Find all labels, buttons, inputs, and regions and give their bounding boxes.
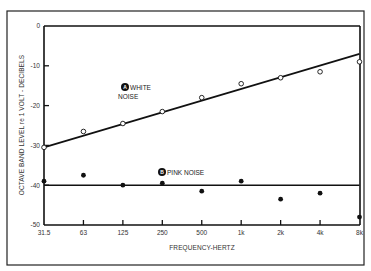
y-tick-label: -50	[31, 221, 41, 228]
white-noise-label-line1: WHITE	[130, 84, 152, 91]
x-tick-label: 1k	[238, 229, 246, 236]
data-point	[199, 95, 204, 100]
x-tick-label: 4k	[317, 229, 325, 236]
data-point	[239, 81, 244, 86]
x-tick-label: 8k	[356, 229, 364, 236]
noise-spectrum-chart: 0-10-20-30-40-50 31.5631252505001k2k4k8k…	[0, 0, 371, 271]
x-tick-label: 500	[196, 229, 207, 236]
x-axis-title: FREQUENCY-HERTZ	[169, 244, 234, 252]
x-tick-label: 63	[80, 229, 88, 236]
data-point	[278, 197, 283, 202]
y-tick-label: -20	[31, 102, 41, 109]
data-point	[318, 191, 323, 196]
x-tick-label: 2k	[277, 229, 285, 236]
white-noise-label: A WHITE NOISE	[118, 83, 152, 100]
x-tick-label: 250	[157, 229, 168, 236]
data-point	[318, 69, 323, 74]
data-point	[42, 179, 47, 184]
plot-frame	[44, 26, 360, 225]
series-layer	[42, 54, 362, 220]
y-tick-label: 0	[36, 22, 40, 29]
y-tick-label: -10	[31, 62, 41, 69]
data-point	[160, 109, 165, 114]
x-axis-ticks: 31.5631252505001k2k4k8k	[38, 220, 364, 236]
y-axis-title: OCTAVE BAND LEVEL re 1 VOLT - DECIBELS	[18, 54, 25, 195]
data-point	[81, 173, 86, 178]
x-tick-label: 31.5	[38, 229, 51, 236]
outer-frame	[7, 11, 364, 265]
data-point	[42, 145, 47, 150]
svg-text:A: A	[123, 84, 127, 90]
white-noise-label-line2: NOISE	[118, 93, 139, 100]
pink-noise-label-text: PINK NOISE	[167, 169, 205, 176]
data-point	[120, 183, 125, 188]
x-tick-label: 125	[117, 229, 128, 236]
data-point	[357, 60, 362, 65]
data-point	[81, 129, 86, 134]
pink-noise-series	[42, 173, 362, 220]
y-axis-ticks: 0-10-20-30-40-50	[31, 22, 49, 228]
svg-text:B: B	[160, 169, 164, 175]
y-tick-label: -40	[31, 182, 41, 189]
data-point	[278, 75, 283, 80]
data-point	[239, 179, 244, 184]
data-point	[160, 181, 165, 186]
pink-noise-label: B PINK NOISE	[158, 168, 205, 176]
y-tick-label: -30	[31, 142, 41, 149]
data-point	[199, 189, 204, 194]
data-point	[121, 121, 126, 126]
white-noise-series	[42, 54, 362, 150]
data-point	[357, 215, 362, 220]
